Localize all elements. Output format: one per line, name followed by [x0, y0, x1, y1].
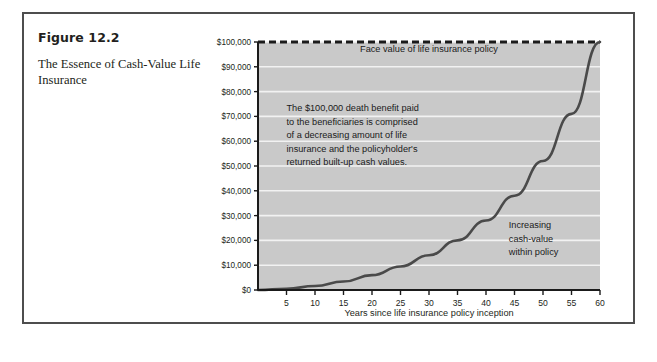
- svg-text:40: 40: [481, 298, 491, 308]
- death-benefit-note: The $100,000 death benefit paidto the be…: [287, 103, 419, 167]
- svg-text:The $100,000 death benefit pai: The $100,000 death benefit paid: [287, 103, 419, 113]
- svg-text:15: 15: [339, 298, 349, 308]
- svg-text:$80,000: $80,000: [221, 88, 251, 97]
- figure-title: The Essence of Cash-Value Life Insurance: [38, 56, 208, 88]
- svg-text:$100,000: $100,000: [217, 38, 252, 47]
- svg-text:$40,000: $40,000: [221, 187, 251, 196]
- figure-caption-block: Figure 12.2 The Essence of Cash-Value Li…: [38, 30, 208, 88]
- svg-text:45: 45: [510, 298, 520, 308]
- svg-text:of a decreasing amount of lif: of a decreasing amount of life: [287, 130, 408, 140]
- svg-text:$90,000: $90,000: [221, 63, 251, 72]
- x-axis-tick-labels: 51015202530354045505560: [284, 298, 605, 308]
- svg-text:60: 60: [595, 298, 605, 308]
- svg-text:50: 50: [538, 298, 548, 308]
- svg-text:35: 35: [453, 298, 463, 308]
- x-axis-title: Years since life insurance policy incept…: [344, 308, 513, 318]
- svg-text:30: 30: [424, 298, 434, 308]
- figure-frame: Figure 12.2 The Essence of Cash-Value Li…: [22, 12, 635, 324]
- svg-text:25: 25: [396, 298, 406, 308]
- cash-value-note: Increasingcash-valuewithin policy: [508, 220, 559, 257]
- svg-text:to the beneficiaries is compri: to the beneficiaries is comprised: [287, 117, 418, 127]
- svg-text:$60,000: $60,000: [221, 137, 251, 146]
- svg-text:20: 20: [367, 298, 377, 308]
- svg-text:$20,000: $20,000: [221, 236, 251, 245]
- svg-text:$70,000: $70,000: [221, 112, 251, 121]
- svg-text:within policy: within policy: [508, 247, 559, 257]
- svg-text:insurance and the policyholder: insurance and the policyholder's: [287, 144, 418, 154]
- figure-number: Figure 12.2: [38, 30, 208, 45]
- svg-text:returned built-up cash values.: returned built-up cash values.: [287, 157, 408, 167]
- svg-text:10: 10: [310, 298, 320, 308]
- svg-text:Increasing: Increasing: [509, 220, 551, 230]
- cash-value-chart: $0$10,000$20,000$30,000$40,000$50,000$60…: [200, 28, 624, 318]
- svg-text:$0: $0: [242, 286, 252, 295]
- svg-text:$30,000: $30,000: [221, 212, 251, 221]
- svg-text:5: 5: [284, 298, 289, 308]
- svg-text:55: 55: [567, 298, 577, 308]
- svg-text:$50,000: $50,000: [221, 162, 251, 171]
- svg-text:cash-value: cash-value: [509, 234, 553, 244]
- chart-svg: $0$10,000$20,000$30,000$40,000$50,000$60…: [200, 28, 624, 318]
- face-value-label: Face value of life insurance policy: [360, 44, 498, 54]
- svg-text:$10,000: $10,000: [221, 261, 251, 270]
- y-axis-tick-labels: $0$10,000$20,000$30,000$40,000$50,000$60…: [217, 38, 252, 295]
